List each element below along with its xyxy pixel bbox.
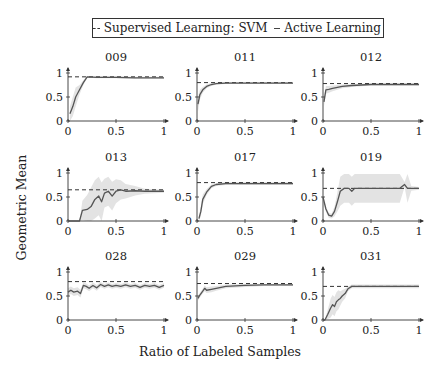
x-axis-arrow-icon [420,219,424,223]
panel-012: 000.50.511012 [301,50,425,138]
x-tick-label: 1 [290,125,297,138]
y-tick-label: 0 [56,314,63,327]
panel-title: 012 [360,50,382,64]
variance-band [323,284,419,320]
y-tick-label: 1 [56,67,63,80]
x-tick-label: 1 [416,125,423,138]
y-axis-arrow-icon [321,67,325,71]
x-tick-label: 0 [65,225,72,238]
y-tick-label: 0 [311,115,318,128]
panel-title: 017 [234,150,256,164]
x-tick-label: 0.5 [236,125,254,138]
y-tick-label: 0.5 [301,91,319,104]
x-tick-label: 1 [161,225,168,238]
y-axis-arrow-icon [195,266,199,270]
x-tick-label: 0 [194,125,201,138]
x-tick-label: 1 [161,125,168,138]
panel-title: 011 [234,50,256,64]
y-tick-label: 1 [311,167,318,180]
x-axis-arrow-icon [420,318,424,322]
variance-band [323,174,419,219]
panel-title: 013 [105,150,127,164]
active-learning-line [70,77,164,114]
panel-title: 031 [360,249,382,263]
variance-band [199,182,293,221]
y-tick-label: 0.5 [46,191,64,204]
y-tick-label: 1 [185,67,192,80]
x-tick-label: 0 [65,125,72,138]
y-axis-arrow-icon [66,266,70,270]
y-axis-arrow-icon [321,167,325,171]
x-axis-arrow-icon [294,318,298,322]
x-axis-label: Ratio of Labeled Samples [0,344,440,359]
y-tick-label: 0.5 [175,91,193,104]
y-axis-label: Geometric Mean [14,153,29,263]
x-tick-label: 0 [65,324,72,337]
x-tick-label: 0 [320,225,327,238]
x-tick-label: 0.5 [236,324,254,337]
variance-band [198,284,293,301]
x-tick-label: 1 [161,324,168,337]
x-tick-label: 0 [194,324,201,337]
panel-029: 000.50.511029 [175,249,299,337]
x-tick-label: 0.5 [362,125,380,138]
y-tick-label: 0.5 [175,191,193,204]
y-tick-label: 0 [311,314,318,327]
y-tick-label: 1 [185,266,192,279]
y-tick-label: 0.5 [46,91,64,104]
active-learning-line [199,184,293,219]
x-tick-label: 1 [416,225,423,238]
x-axis-arrow-icon [165,219,169,223]
y-tick-label: 0.5 [301,290,319,303]
y-tick-label: 0.5 [46,290,64,303]
x-tick-label: 1 [416,324,423,337]
x-axis-arrow-icon [420,119,424,123]
x-tick-label: 0 [320,125,327,138]
y-tick-label: 1 [311,67,318,80]
y-axis-arrow-icon [195,167,199,171]
y-axis-arrow-icon [321,266,325,270]
x-tick-label: 0.5 [362,324,380,337]
x-axis-arrow-icon [165,119,169,123]
active-learning-line [198,83,293,104]
y-tick-label: 0 [311,215,318,228]
y-tick-label: 0.5 [175,290,193,303]
y-tick-label: 1 [56,266,63,279]
x-tick-label: 0 [194,225,201,238]
y-tick-label: 0 [56,115,63,128]
x-axis-arrow-icon [294,219,298,223]
y-tick-label: 0 [185,115,192,128]
panel-011: 000.50.511011 [175,50,299,138]
y-tick-label: 1 [311,266,318,279]
panel-017: 000.50.511017 [175,150,299,238]
variance-band [68,177,164,221]
y-tick-label: 1 [56,167,63,180]
x-axis-arrow-icon [294,119,298,123]
active-learning-line [324,85,419,102]
x-tick-label: 1 [290,225,297,238]
x-tick-label: 1 [290,324,297,337]
x-tick-label: 0.5 [107,225,125,238]
panel-019: 000.50.511019 [301,150,425,238]
x-tick-label: 0.5 [362,225,380,238]
y-axis-arrow-icon [66,67,70,71]
panel-009: 000.50.511009 [46,50,170,138]
y-tick-label: 0 [56,215,63,228]
panel-031: 000.50.511031 [301,249,425,337]
y-tick-label: 1 [185,167,192,180]
x-tick-label: 0.5 [107,125,125,138]
panel-013: 000.50.511013 [46,150,170,238]
panel-028: 000.50.511028 [46,249,170,337]
variance-band [198,82,293,111]
x-tick-label: 0.5 [107,324,125,337]
figure-panels: 000.50.511009000.50.511011000.50.5110120… [0,0,440,374]
y-axis-arrow-icon [195,67,199,71]
panel-title: 009 [105,50,127,64]
panel-title: 029 [234,249,256,263]
x-axis-arrow-icon [165,318,169,322]
y-tick-label: 0 [185,215,192,228]
panel-title: 028 [105,249,127,263]
panel-title: 019 [360,150,382,164]
x-tick-label: 0 [320,324,327,337]
x-tick-label: 0.5 [236,225,254,238]
